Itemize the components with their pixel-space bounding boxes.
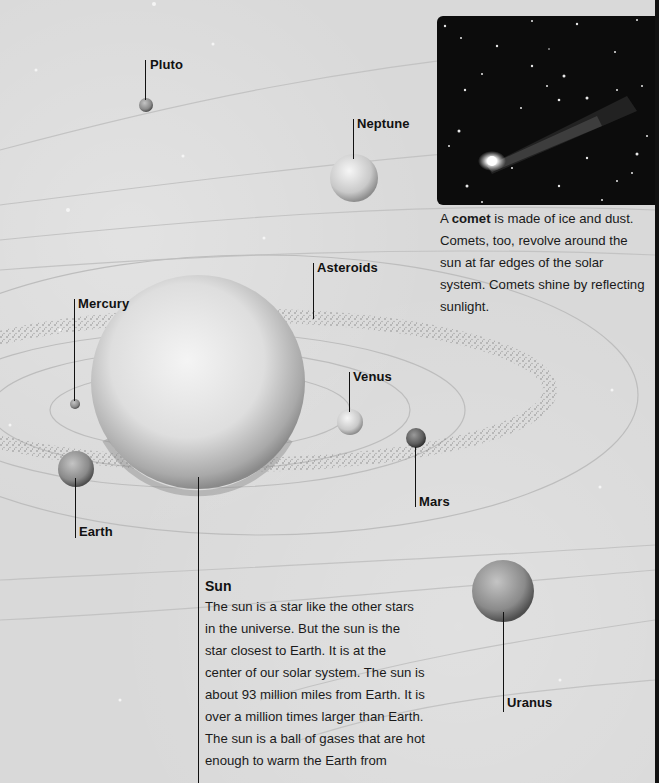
venus-label: Venus [353, 369, 392, 384]
sun-title: Sun [205, 578, 425, 594]
earth-label: Earth [79, 524, 113, 539]
neptune-globe [330, 154, 378, 202]
earth-globe [58, 451, 94, 487]
neptune-leader [353, 119, 354, 159]
pluto-leader [145, 60, 146, 100]
comet-caption: A comet is made of ice and dust. Comets,… [440, 208, 650, 318]
pluto-globe [139, 98, 153, 112]
solar-system-page: Pluto Neptune Asteroids Mercury Venus Ma… [0, 0, 655, 783]
sun-text: The sun is a star like the other stars i… [205, 596, 425, 772]
page-edge [655, 0, 659, 783]
venus-globe [337, 409, 363, 435]
uranus-leader [503, 612, 504, 712]
comet-photo [437, 16, 655, 205]
mars-globe [406, 428, 426, 448]
mercury-label: Mercury [78, 296, 129, 311]
mars-label: Mars [419, 494, 450, 509]
mercury-globe [70, 399, 80, 409]
uranus-label: Uranus [507, 695, 552, 710]
mercury-leader [74, 299, 75, 401]
mars-leader [415, 447, 416, 507]
asteroids-label: Asteroids [317, 260, 378, 275]
venus-leader [349, 372, 350, 412]
neptune-label: Neptune [357, 116, 410, 131]
earth-leader [75, 478, 76, 538]
sun-leader [198, 477, 199, 783]
asteroids-leader [313, 263, 314, 319]
sun-description: Sun The sun is a star like the other sta… [205, 578, 425, 772]
pluto-label: Pluto [150, 57, 183, 72]
comet-term: comet [452, 211, 491, 226]
